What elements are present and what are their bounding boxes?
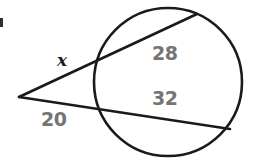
label-segment-20: 20 [41, 110, 66, 129]
label-segment-28: 28 [152, 44, 177, 63]
label-segment-32: 32 [152, 89, 177, 108]
circle-shape [94, 8, 242, 156]
label-segment-x: x [57, 52, 67, 69]
geometry-canvas [0, 0, 257, 163]
geometry-figure: x 20 28 32 [0, 0, 257, 163]
